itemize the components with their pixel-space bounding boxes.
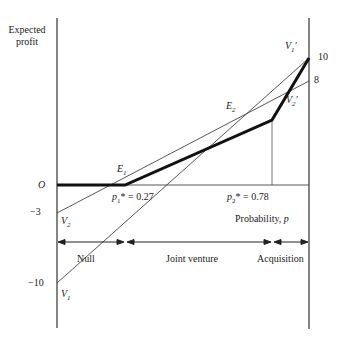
region-arrows xyxy=(58,240,308,245)
region-null-label: Null xyxy=(77,253,95,264)
v2-label: V2 xyxy=(61,215,71,231)
y-axis-label: Expected profit xyxy=(3,24,51,48)
region-joint-venture-label: Joint venture xyxy=(166,253,218,264)
e1-label: E1 xyxy=(117,163,127,179)
region-acquisition-label: Acquisition xyxy=(257,253,304,264)
tick-8: 8 xyxy=(314,74,319,85)
y-label-line1: Expected xyxy=(3,24,51,36)
upper-envelope xyxy=(57,58,309,185)
v1-label: V1 xyxy=(61,288,71,304)
origin-label: O xyxy=(38,179,45,190)
v2-prime-label: V2′ xyxy=(286,94,298,110)
tick-10: 10 xyxy=(318,51,328,62)
v1-prime-label: V1′ xyxy=(285,40,297,56)
p1-annotation: p1* = 0.27 xyxy=(112,191,154,207)
p2-annotation: p2* = 0.78 xyxy=(227,191,269,207)
tick-minus-3: −3 xyxy=(30,206,41,217)
tick-minus-10: −10 xyxy=(28,277,44,288)
v1-line xyxy=(57,58,309,283)
y-label-line2: profit xyxy=(3,36,51,48)
v2-line xyxy=(57,81,309,213)
x-axis-label: Probability, p xyxy=(235,213,289,224)
e2-label: E2 xyxy=(226,100,236,116)
